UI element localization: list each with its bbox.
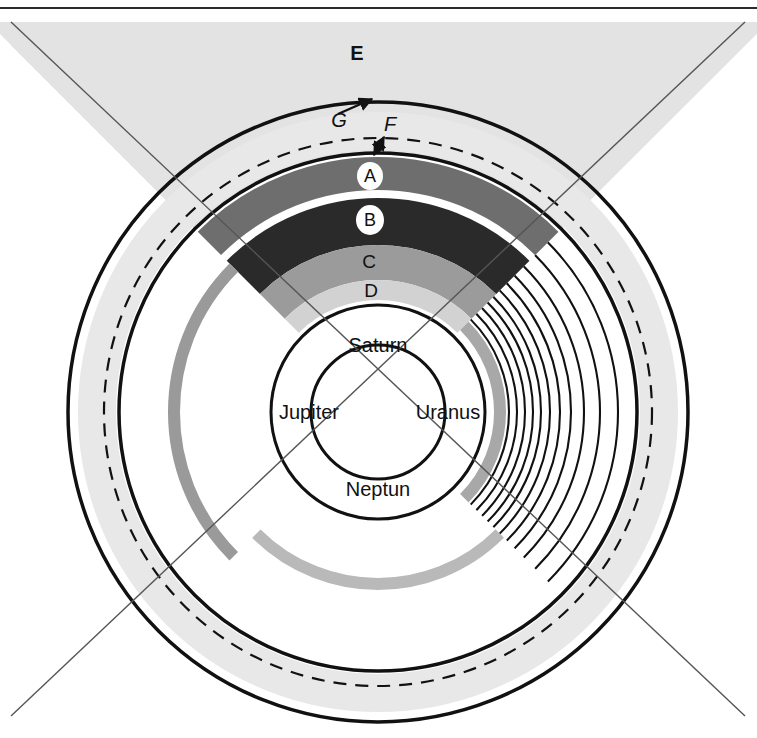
label-G: G bbox=[331, 109, 347, 131]
label-F: F bbox=[384, 113, 398, 135]
label-planet-uranus: Uranus bbox=[416, 401, 480, 423]
label-ring-C: C bbox=[362, 251, 376, 272]
label-ring-D: D bbox=[364, 280, 378, 301]
figure-root: E G F A B C D Saturn Jupiter Uranus Nept… bbox=[0, 0, 757, 738]
planetary-ring-diagram: E G F A B C D Saturn Jupiter Uranus Nept… bbox=[0, 0, 757, 738]
label-ring-A: A bbox=[364, 166, 376, 186]
label-planet-neptune: Neptun bbox=[346, 478, 411, 500]
label-E: E bbox=[350, 42, 363, 64]
label-planet-jupiter: Jupiter bbox=[279, 401, 339, 423]
label-ring-B: B bbox=[364, 210, 376, 230]
label-planet-saturn: Saturn bbox=[349, 334, 408, 356]
